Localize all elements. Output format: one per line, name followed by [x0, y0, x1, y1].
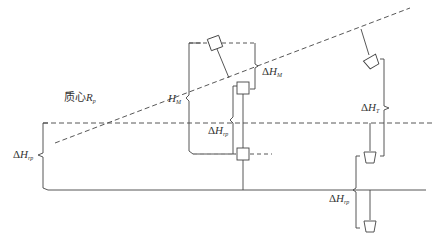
delta-h-rp-left-label: ΔHrp	[13, 149, 33, 161]
delta-ht-brace	[380, 59, 389, 156]
right-lower-bracket	[353, 156, 360, 228]
centroid-label: 质心Rp	[64, 92, 96, 104]
delta-h-m-label: ΔHM	[262, 66, 282, 78]
delta-h-rp-mid-label: ΔHrp	[208, 125, 228, 137]
middle-bracket	[186, 43, 272, 154]
trapezoid-marker-mid	[364, 152, 376, 163]
square-marker-inclined	[207, 35, 222, 50]
left-brace	[38, 123, 48, 190]
trapezoid-marker-inclined	[363, 54, 380, 70]
delta-h-rp-right-label: ΔHrp	[329, 193, 349, 205]
h-m-label: HM	[168, 93, 181, 105]
inclined-square-stem	[217, 49, 229, 78]
diagram-canvas	[0, 0, 436, 245]
delta-h-t-label: ΔHT	[361, 102, 379, 114]
trapezoid-marker-low	[364, 221, 376, 232]
square-marker-upper	[237, 82, 249, 94]
square-marker-lower	[237, 148, 249, 160]
